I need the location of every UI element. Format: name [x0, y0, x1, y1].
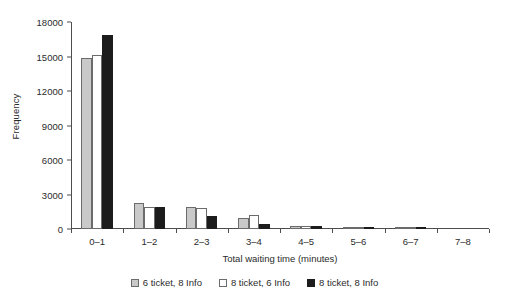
y-axis-tick-label: 3000 — [42, 189, 67, 200]
bar — [144, 207, 154, 229]
y-axis-tick-label: 9000 — [42, 120, 67, 131]
legend-swatch — [307, 279, 315, 287]
bar — [102, 35, 112, 229]
x-axis-tick-label: 4–5 — [298, 236, 314, 247]
legend-item[interactable]: 6 ticket, 8 Info — [131, 277, 202, 288]
y-axis-tick-mark — [67, 194, 71, 195]
x-axis-tick-mark — [228, 229, 229, 233]
bar — [343, 227, 353, 229]
bar — [405, 227, 415, 229]
y-axis-tick: 9000 — [42, 120, 71, 131]
x-axis-tick-mark — [385, 229, 386, 233]
y-axis-tick: 15000 — [37, 51, 71, 62]
legend-label: 8 ticket, 8 Info — [319, 277, 378, 288]
bar — [196, 208, 206, 229]
y-axis-tick: 3000 — [42, 189, 71, 200]
x-axis-tick-mark — [123, 229, 124, 233]
y-axis-tick-label: 18000 — [37, 17, 67, 28]
y-axis-tick: 18000 — [37, 17, 71, 28]
y-axis-tick: 12000 — [37, 86, 71, 97]
bar — [134, 203, 144, 229]
x-axis-tick-label: 2–3 — [194, 236, 210, 247]
legend-swatch — [131, 279, 139, 287]
y-axis-tick-mark — [67, 160, 71, 161]
bar — [81, 58, 91, 229]
bar — [92, 55, 102, 229]
bar — [186, 207, 196, 229]
y-axis-title: Frequency — [6, 0, 26, 232]
bar — [353, 227, 363, 229]
x-axis-tick-mark — [437, 229, 438, 233]
bar — [364, 227, 374, 229]
legend-label: 8 ticket, 6 Info — [231, 277, 290, 288]
y-axis-tick-label: 6000 — [42, 155, 67, 166]
x-axis-tick-mark — [280, 229, 281, 233]
x-axis-tick-mark — [489, 229, 490, 233]
bar — [290, 226, 300, 229]
bar — [155, 207, 165, 229]
x-axis-title: Total waiting time (minutes) — [71, 253, 489, 264]
y-axis-line — [71, 22, 72, 229]
plot-area: 0300060009000120001500018000 0–11–22–33–… — [71, 22, 489, 229]
y-axis-tick-mark — [67, 91, 71, 92]
x-axis-tick-mark — [176, 229, 177, 233]
bar — [249, 215, 259, 229]
x-axis-tick-label: 7–8 — [455, 236, 471, 247]
y-axis-tick: 0 — [58, 224, 71, 235]
bar — [416, 227, 426, 229]
bar — [301, 226, 311, 229]
bar — [238, 218, 248, 229]
bar — [395, 227, 405, 229]
y-axis-tick-label: 15000 — [37, 51, 67, 62]
chart-figure: Frequency 0300060009000120001500018000 0… — [0, 0, 509, 307]
x-axis-tick-mark — [332, 229, 333, 233]
y-axis-title-text: Frequency — [11, 93, 22, 139]
bar — [259, 224, 269, 229]
x-axis-tick-label: 6–7 — [403, 236, 419, 247]
y-axis-tick-mark — [67, 22, 71, 23]
x-axis-tick-label: 5–6 — [350, 236, 366, 247]
x-axis-tick-mark — [71, 229, 72, 233]
y-axis-tick-label: 0 — [58, 224, 67, 235]
y-axis-tick-label: 12000 — [37, 86, 67, 97]
y-axis-tick: 6000 — [42, 155, 71, 166]
x-axis-tick-label: 3–4 — [246, 236, 262, 247]
bar — [207, 216, 217, 229]
x-axis-tick-label: 0–1 — [89, 236, 105, 247]
y-axis-tick-mark — [67, 125, 71, 126]
bar — [311, 226, 321, 229]
legend-label: 6 ticket, 8 Info — [143, 277, 202, 288]
chart-legend: 6 ticket, 8 Info8 ticket, 6 Info8 ticket… — [0, 277, 509, 288]
legend-item[interactable]: 8 ticket, 6 Info — [219, 277, 290, 288]
y-axis-tick-mark — [67, 56, 71, 57]
legend-swatch — [219, 279, 227, 287]
legend-item[interactable]: 8 ticket, 8 Info — [307, 277, 378, 288]
x-axis-tick-label: 1–2 — [141, 236, 157, 247]
